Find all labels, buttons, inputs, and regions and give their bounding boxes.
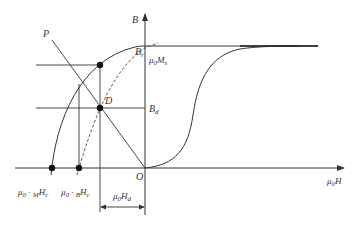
load-line-label: P bbox=[42, 28, 49, 39]
intrinsic-curve-point bbox=[97, 62, 103, 68]
intrinsic-coercivity-label: μ0 · MHc bbox=[17, 187, 49, 199]
origin-label: O bbox=[136, 171, 143, 182]
bd-label: Bd bbox=[149, 103, 159, 116]
normal-coercivity-label: μ0 · BHc bbox=[60, 187, 91, 199]
normal-coercivity-point bbox=[76, 165, 82, 171]
hd-label: μ0Hd bbox=[112, 191, 132, 203]
operating-point-label: D bbox=[104, 95, 113, 106]
x-axis-label: μ0H bbox=[326, 176, 342, 188]
load-line bbox=[52, 40, 145, 168]
demagnetization-diagram: B P Br μ0Ms D Bd O μ0H μ0 · MHc μ0 · BHc… bbox=[0, 0, 358, 227]
saturation-magnetization-label: μ0Ms bbox=[148, 55, 168, 67]
intrinsic-coercivity-point bbox=[49, 165, 55, 171]
operating-point-d bbox=[97, 105, 103, 111]
remanence-label: Br bbox=[135, 46, 144, 59]
initial-magnetization-curve bbox=[145, 46, 318, 168]
normal-demag-curve bbox=[77, 43, 158, 175]
y-axis-label: B bbox=[132, 14, 138, 25]
